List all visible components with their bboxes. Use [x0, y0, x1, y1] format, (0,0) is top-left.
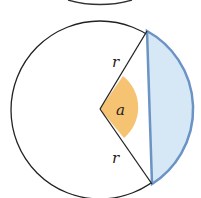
radius-label-bottom: r	[112, 149, 120, 167]
circular-segment	[147, 31, 193, 184]
angle-label: a	[116, 101, 125, 119]
circle-segment-diagram: r a r	[0, 0, 201, 198]
previous-circle-arc	[68, 0, 132, 5]
radius-label-top: r	[112, 53, 120, 71]
